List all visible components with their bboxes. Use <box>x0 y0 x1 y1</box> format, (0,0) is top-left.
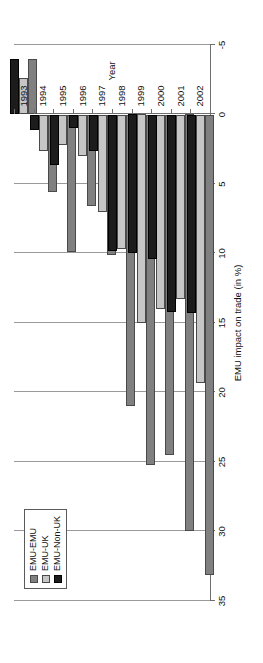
category-label-2001: 2001 <box>175 85 186 106</box>
value-axis-tick-label: 30 <box>216 512 227 552</box>
bar-chart-figure: EMU impact on trade (in %) Year EMU-EMUE… <box>0 0 263 663</box>
value-axis-tick-label: -5 <box>216 25 227 65</box>
bar-emu-uk-1996 <box>78 115 87 157</box>
category-axis-tick <box>73 110 74 115</box>
value-axis-tick-label: 0 <box>216 95 227 135</box>
bar-emu-uk-1995 <box>58 115 67 146</box>
category-axis-tick <box>92 110 93 115</box>
legend-swatch-icon <box>30 575 38 583</box>
value-axis-tick-label: 10 <box>216 234 227 274</box>
legend-item-emu-uk: EMU-UK <box>41 516 50 583</box>
bar-emu-emu-2002 <box>205 115 214 575</box>
bar-emu-non-uk-1997 <box>89 115 98 151</box>
legend-label: EMU-UK <box>41 536 50 572</box>
bar-emu-non-uk-1996 <box>69 115 78 129</box>
value-axis-tick-label: 20 <box>216 373 227 413</box>
value-axis-tick-label: 35 <box>216 581 227 621</box>
bar-emu-non-uk-1998 <box>108 115 117 251</box>
category-label-1995: 1995 <box>57 85 68 106</box>
bar-emu-uk-2000 <box>156 115 165 310</box>
legend-swatch-icon <box>42 575 50 583</box>
value-axis-tick-label: 15 <box>216 303 227 343</box>
legend-swatch-icon <box>54 575 62 583</box>
category-axis-tick <box>151 110 152 115</box>
bar-emu-uk-1998 <box>117 115 126 250</box>
legend-label: EMU-EMU <box>29 528 38 571</box>
category-axis-tick <box>112 110 113 115</box>
bar-emu-non-uk-1995 <box>50 115 59 165</box>
category-axis-tick <box>53 110 54 115</box>
bar-emu-non-uk-1999 <box>128 115 137 254</box>
category-axis-tick <box>190 110 191 115</box>
category-label-1996: 1996 <box>77 85 88 106</box>
category-label-2000: 2000 <box>155 85 166 106</box>
value-axis-tick-label: 5 <box>216 164 227 204</box>
legend-item-emu-emu: EMU-EMU <box>29 516 38 583</box>
bar-emu-non-uk-1994 <box>30 115 39 130</box>
category-axis-tick <box>171 110 172 115</box>
category-label-1998: 1998 <box>116 85 127 106</box>
bar-emu-uk-2002 <box>196 115 205 383</box>
legend: EMU-EMUEMU-UKEMU-Non-UK <box>24 509 67 589</box>
value-axis-tick-label: 25 <box>216 442 227 482</box>
category-label-1994: 1994 <box>37 85 48 106</box>
category-label-2002: 2002 <box>194 85 205 106</box>
category-axis-tick <box>14 110 15 115</box>
bar-emu-non-uk-2000 <box>148 115 157 260</box>
category-axis-tick <box>132 110 133 115</box>
legend-item-emu-non-uk: EMU-Non-UK <box>53 516 62 583</box>
legend-label: EMU-Non-UK <box>53 516 62 571</box>
bar-emu-uk-1997 <box>98 115 107 212</box>
bar-emu-uk-2001 <box>176 115 185 300</box>
category-label-1999: 1999 <box>135 85 146 106</box>
rotated-figure: EMU impact on trade (in %) Year EMU-EMUE… <box>0 0 263 663</box>
bar-emu-uk-1999 <box>137 115 146 324</box>
bar-emu-non-uk-2002 <box>187 115 196 314</box>
category-axis-tick <box>34 110 35 115</box>
bar-emu-uk-1994 <box>39 115 48 151</box>
category-label-1997: 1997 <box>96 85 107 106</box>
chart-canvas: EMU impact on trade (in %) Year EMU-EMUE… <box>0 0 263 663</box>
category-band <box>190 45 210 601</box>
bar-emu-non-uk-2001 <box>167 115 176 312</box>
value-axis-title-wrap: EMU impact on trade (in %) <box>232 265 243 382</box>
value-axis-title: EMU impact on trade (in %) <box>232 265 243 382</box>
category-label-1993: 1993 <box>18 85 29 106</box>
